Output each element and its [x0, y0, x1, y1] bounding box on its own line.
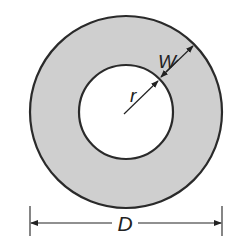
width-label: W — [158, 51, 178, 72]
annulus-diagram: r W D — [0, 0, 232, 241]
radius-label: r — [130, 85, 137, 106]
diameter-label: D — [117, 212, 132, 235]
